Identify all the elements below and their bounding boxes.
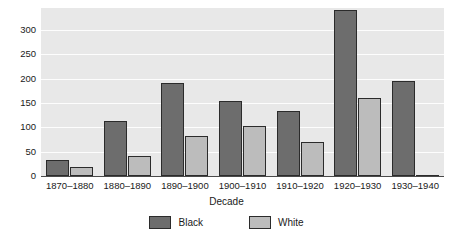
legend-label-white: White [278, 217, 304, 228]
legend-item-white: White [249, 216, 304, 229]
y-tick-label: 250 [0, 49, 36, 58]
x-axis-line [41, 176, 444, 177]
x-tick-label: 1910–1920 [271, 180, 329, 191]
y-tick-label: 150 [0, 98, 36, 107]
y-axis: 050100150200250300 [0, 0, 453, 245]
x-tick-label: 1890–1900 [156, 180, 214, 191]
y-tick-label: 0 [0, 171, 36, 180]
x-tick-label: 1930–1940 [386, 180, 444, 191]
x-tick-label: 1900–1910 [214, 180, 272, 191]
legend-swatch-black [149, 216, 171, 229]
x-tick-label: 1920–1930 [329, 180, 387, 191]
y-tick-label: 100 [0, 122, 36, 131]
x-tick-label: 1880–1890 [99, 180, 157, 191]
x-axis-title: Decade [0, 196, 453, 207]
y-tick-label: 300 [0, 25, 36, 34]
chart-legend: Black White [0, 216, 453, 229]
legend-label-black: Black [178, 217, 202, 228]
x-tick-label: 1870–1880 [41, 180, 99, 191]
bar-chart: 050100150200250300 1870–18801880–1890189… [0, 0, 453, 245]
legend-item-black: Black [149, 216, 202, 229]
y-tick-label: 200 [0, 74, 36, 83]
y-tick-label: 50 [0, 147, 36, 156]
legend-swatch-white [249, 216, 271, 229]
